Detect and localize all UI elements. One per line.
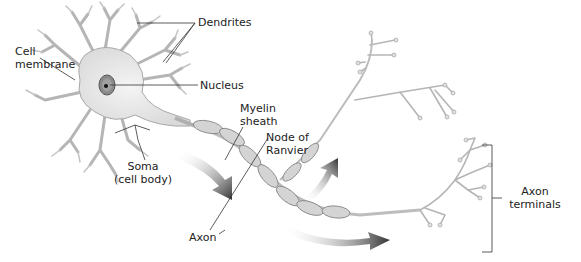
label-nucleus: Nucleus bbox=[200, 79, 244, 92]
label-cell-membrane-1: Cell bbox=[15, 45, 36, 58]
signal-arrow-2 bbox=[305, 158, 338, 202]
label-axon: Axon bbox=[189, 231, 216, 244]
label-node-1: Node of bbox=[266, 131, 306, 144]
signal-arrow-3 bbox=[280, 222, 390, 250]
signal-arrow-1 bbox=[180, 150, 232, 200]
label-soma-2: (cell body) bbox=[110, 173, 176, 186]
label-cell-membrane-2: membrane bbox=[15, 58, 75, 71]
soma bbox=[79, 48, 190, 127]
label-soma-1: Soma bbox=[110, 160, 176, 173]
lower-axon-terminals bbox=[420, 138, 490, 225]
label-node-2: Ranvier bbox=[266, 144, 306, 157]
upper-axon-terminals bbox=[355, 33, 454, 118]
label-myelin-2: sheath bbox=[240, 115, 278, 128]
neuron-diagram: Dendrites Cell membrane Nucleus Myelin s… bbox=[0, 0, 581, 262]
label-dendrites: Dendrites bbox=[198, 16, 252, 29]
label-myelin-1: Myelin bbox=[240, 102, 276, 115]
label-axon-terminals-1: Axon bbox=[505, 185, 565, 198]
label-axon-terminals-2: terminals bbox=[505, 198, 565, 211]
